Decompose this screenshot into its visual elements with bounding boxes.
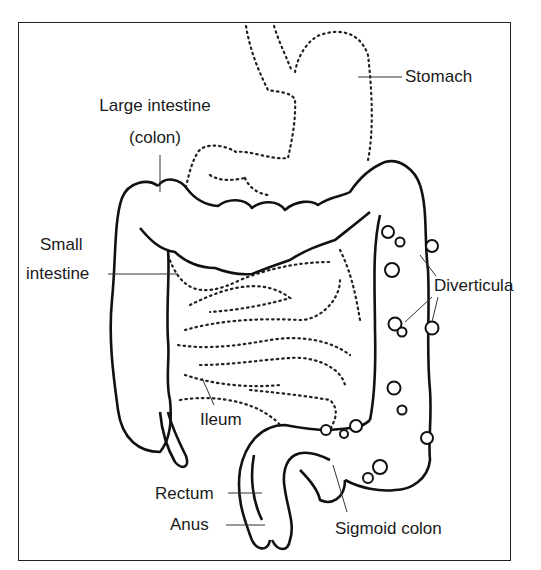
label-rectum: Rectum	[155, 484, 214, 504]
label-stomach: Stomach	[405, 67, 472, 87]
diverticulum	[426, 322, 439, 335]
label-large-intestine: Large intestine	[70, 96, 240, 116]
diverticulum	[321, 425, 331, 435]
label-small-intestine-line2: intestine	[26, 264, 89, 284]
leader-diverticula-2	[432, 297, 438, 322]
diverticulum	[426, 240, 438, 252]
diverticulum	[363, 473, 373, 483]
diverticulum	[385, 263, 399, 277]
diverticulum	[382, 226, 394, 238]
label-ileum: Ileum	[200, 410, 242, 430]
diverticulum	[398, 406, 407, 415]
label-large-intestine-colon: (colon)	[70, 128, 240, 148]
diverticulum	[398, 328, 407, 337]
small-intestine-outline	[168, 250, 360, 430]
label-small-intestine: Small	[40, 235, 83, 255]
diverticulum	[350, 420, 362, 432]
diverticulum	[421, 432, 433, 444]
diverticulum	[396, 238, 405, 247]
label-anus: Anus	[170, 515, 209, 535]
label-diverticula: Diverticula	[434, 276, 513, 296]
diverticulum	[340, 430, 348, 438]
diverticula-pouches	[321, 226, 439, 483]
label-sigmoid-colon: Sigmoid colon	[335, 519, 442, 539]
diverticulum	[388, 382, 401, 395]
diverticulum	[373, 460, 387, 474]
